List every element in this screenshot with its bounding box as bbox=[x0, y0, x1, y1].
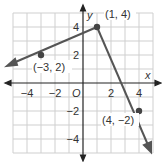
right-ray bbox=[97, 27, 148, 145]
y-tick-label: 2 bbox=[73, 49, 79, 61]
y-tick-label: −2 bbox=[66, 105, 79, 117]
y-tick-label: −4 bbox=[66, 133, 79, 145]
point-label: (−3, 2) bbox=[33, 61, 65, 73]
point-label: (1, 4) bbox=[105, 8, 131, 20]
y-axis-arrow-down bbox=[81, 155, 86, 161]
origin-label: O bbox=[72, 87, 81, 99]
point-neg3-2 bbox=[38, 52, 44, 58]
y-tick-label: 4 bbox=[73, 21, 79, 33]
coordinate-graph: −4 −2 2 4 4 2 −2 −4 O x y (−3, 2) (1, 4)… bbox=[0, 0, 162, 162]
x-tick-label: 2 bbox=[108, 87, 114, 99]
x-tick-label: −4 bbox=[21, 87, 34, 99]
axes bbox=[5, 5, 161, 161]
x-tick-label: −2 bbox=[49, 87, 62, 99]
x-axis-arrow-right bbox=[155, 81, 161, 86]
y-axis-arrow-up bbox=[81, 5, 86, 11]
x-tick-label: 4 bbox=[136, 87, 142, 99]
left-ray-arrow bbox=[7, 59, 17, 66]
right-ray-arrow bbox=[144, 142, 151, 152]
point-labels: (−3, 2) (1, 4) (4, −2) bbox=[32, 7, 139, 126]
x-axis-label: x bbox=[144, 69, 151, 81]
point-label: (4, −2) bbox=[102, 114, 134, 126]
point-1-4 bbox=[94, 24, 100, 30]
y-axis-label: y bbox=[86, 9, 94, 21]
x-axis-arrow-left bbox=[5, 81, 11, 86]
